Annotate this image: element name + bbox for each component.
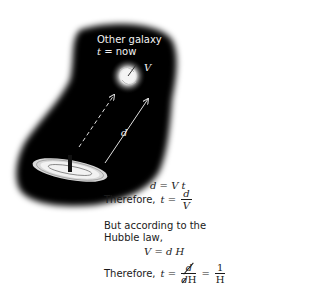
- other-galaxy-title: Other galaxy: [97, 34, 162, 45]
- cancelled-d-denominator: d: [181, 274, 187, 285]
- hubble-law-text: But according to the Hubble law,: [104, 220, 206, 244]
- other-galaxy-label: Other galaxy t = now: [97, 34, 162, 57]
- equation-v-equals-dh: V = d H: [144, 246, 184, 257]
- velocity-label: V: [144, 62, 151, 73]
- other-galaxy-icon: [110, 58, 146, 94]
- cancelled-d-numerator: d: [181, 262, 196, 274]
- distance-label: d: [121, 127, 127, 138]
- equation-t-equals-d-over-v: Therefore, t = d V: [104, 188, 192, 211]
- time-now-label: t = now: [97, 46, 162, 57]
- equation-t-equals-one-over-h: Therefore, t = d dH = 1 H: [104, 262, 225, 285]
